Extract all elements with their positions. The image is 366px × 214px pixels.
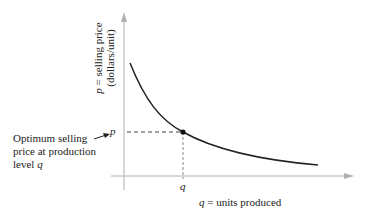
x-axis-label: q = units produced	[199, 196, 281, 208]
price-curve	[130, 63, 318, 165]
y-axis-label-var: p	[92, 88, 104, 94]
q-tick-label: q	[180, 180, 186, 192]
x-axis-label-text: = units produced	[205, 196, 282, 208]
optimum-point	[180, 129, 185, 134]
annotation-line-1: Optimum selling	[13, 132, 96, 145]
p-tick-label: p	[110, 125, 116, 137]
annotation-line-3: level q	[13, 158, 96, 171]
y-axis-label-text: = selling price	[92, 22, 104, 88]
y-axis-label-units: (dollars/unit)	[104, 13, 116, 103]
x-axis-arrow-icon	[344, 173, 354, 179]
annotation-arrow-head-icon	[103, 133, 110, 138]
y-axis-label: p = selling price (dollars/unit)	[92, 13, 116, 103]
optimum-annotation: Optimum selling price at production leve…	[13, 132, 96, 171]
annotation-line-2: price at production	[13, 145, 96, 158]
y-axis-arrow-icon	[121, 12, 127, 22]
